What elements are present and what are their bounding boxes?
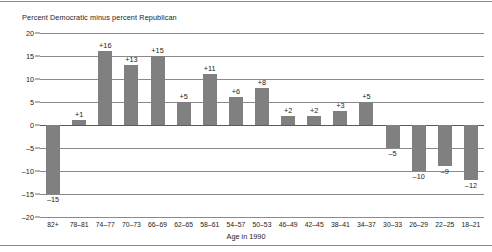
x-tick-label: 22–25 xyxy=(435,221,454,228)
bar-group: +1674–77 xyxy=(92,33,118,217)
chart-figure: Percent Democratic minus percent Republi… xyxy=(0,0,492,252)
bar-value-label: +3 xyxy=(336,101,344,110)
bar xyxy=(255,88,269,125)
x-tick-label: 38–41 xyxy=(331,221,350,228)
x-tick-label: 54–57 xyxy=(226,221,245,228)
bar-group: –1026–29 xyxy=(406,33,432,217)
figure-bottom-rule xyxy=(0,245,492,246)
y-tick-label: –10 xyxy=(22,167,34,176)
bar-value-label: +2 xyxy=(284,106,292,115)
bar-group: +1370–73 xyxy=(118,33,144,217)
bar-group: +246–49 xyxy=(275,33,301,217)
bar-value-label: –9 xyxy=(441,167,449,176)
bar-value-label: –5 xyxy=(389,149,397,158)
x-tick-label: 46–49 xyxy=(279,221,298,228)
bar-group: +178–81 xyxy=(66,33,92,217)
x-axis-title: Age in 1990 xyxy=(0,232,492,241)
x-tick-label: 34–37 xyxy=(357,221,376,228)
bar-value-label: +15 xyxy=(151,46,163,55)
bar-value-label: +1 xyxy=(75,110,83,119)
x-tick-label: 62–65 xyxy=(174,221,193,228)
bar-group: –922–25 xyxy=(432,33,458,217)
bar-value-label: +5 xyxy=(362,92,370,101)
bar xyxy=(46,125,60,194)
bar xyxy=(98,51,112,125)
bar xyxy=(359,102,373,125)
x-tick-label: 42–45 xyxy=(305,221,324,228)
bar-group: +242–45 xyxy=(301,33,327,217)
bar-group: –1582+ xyxy=(40,33,66,217)
bar-value-label: –15 xyxy=(47,195,59,204)
bar-group: +534–37 xyxy=(353,33,379,217)
bar-group: –530–33 xyxy=(380,33,406,217)
bar xyxy=(281,116,295,125)
bar-group: –1218–21 xyxy=(458,33,484,217)
gridline--20 xyxy=(40,217,484,218)
y-tick-label: 20 xyxy=(26,29,34,38)
y-tick-label: 5 xyxy=(30,98,34,107)
bar xyxy=(177,102,191,125)
x-tick-label: 58–61 xyxy=(200,221,219,228)
bar-value-label: –12 xyxy=(465,181,477,190)
bar-group: +654–57 xyxy=(223,33,249,217)
bar xyxy=(412,125,426,171)
bar xyxy=(464,125,478,180)
x-tick-label: 18–21 xyxy=(461,221,480,228)
bar-group: +850–53 xyxy=(249,33,275,217)
bar xyxy=(72,120,86,125)
bar-group: +1158–61 xyxy=(197,33,223,217)
chart-title: Percent Democratic minus percent Republi… xyxy=(22,13,177,22)
bar-value-label: +11 xyxy=(204,64,216,73)
bar xyxy=(151,56,165,125)
bar-value-label: +5 xyxy=(179,92,187,101)
bar-value-label: +6 xyxy=(232,87,240,96)
bar-series: –1582++178–81+1674–77+1370–73+1566–69+56… xyxy=(40,33,484,217)
x-tick-label: 26–29 xyxy=(409,221,428,228)
y-tick-label: –20 xyxy=(22,213,34,222)
x-tick-label: 82+ xyxy=(47,221,59,228)
bar-value-label: +8 xyxy=(258,78,266,87)
bar xyxy=(229,97,243,125)
x-tick-label: 70–73 xyxy=(122,221,141,228)
x-tick-label: 78–81 xyxy=(70,221,89,228)
bar-group: +338–41 xyxy=(327,33,353,217)
figure-top-rule xyxy=(0,1,492,2)
bar-value-label: –10 xyxy=(413,172,425,181)
y-tick-label: 10 xyxy=(26,75,34,84)
y-tick-label: 15 xyxy=(26,52,34,61)
plot-area: 20151050–5–10–15–20 –1582++178–81+1674–7… xyxy=(40,33,484,217)
y-tick-label: 0 xyxy=(30,121,34,130)
y-tick-label: –5 xyxy=(26,144,34,153)
x-tick-label: 30–33 xyxy=(383,221,402,228)
x-tick-label: 74–77 xyxy=(96,221,115,228)
y-tick-label: –15 xyxy=(22,190,34,199)
x-tick-label: 50–53 xyxy=(253,221,272,228)
bar xyxy=(386,125,400,148)
bar xyxy=(124,65,138,125)
bar-value-label: +16 xyxy=(99,41,111,50)
bar xyxy=(333,111,347,125)
bar xyxy=(307,116,321,125)
bar-value-label: +13 xyxy=(125,55,137,64)
bar xyxy=(203,74,217,125)
bar-group: +1566–69 xyxy=(144,33,170,217)
bar-value-label: +2 xyxy=(310,106,318,115)
bar-group: +562–65 xyxy=(171,33,197,217)
bar xyxy=(438,125,452,166)
x-tick-label: 66–69 xyxy=(148,221,167,228)
